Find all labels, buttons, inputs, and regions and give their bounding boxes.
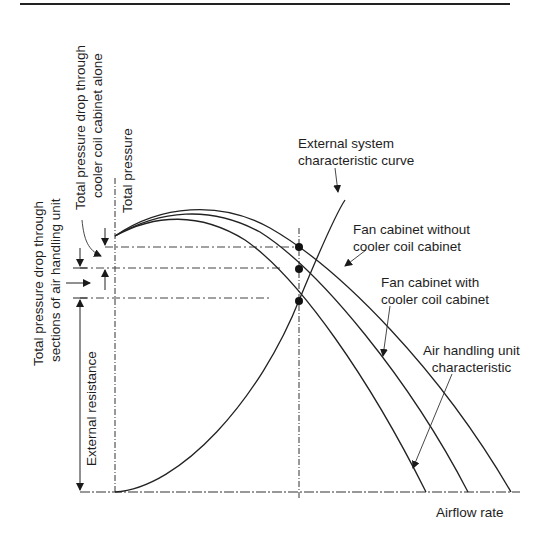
ahu-characteristic-label: Air handling unit characteristic bbox=[423, 342, 520, 376]
fan-with-leader bbox=[383, 306, 390, 356]
fan-with-coil-label: Fan cabinet with cooler coil cabinet bbox=[381, 274, 489, 308]
ahu-characteristic-curve bbox=[115, 219, 426, 492]
x-axis-label: Airflow rate bbox=[436, 504, 504, 521]
ahu-drop-label: Total pressure drop through sections of … bbox=[30, 198, 64, 366]
operating-point-fan-without bbox=[295, 243, 303, 251]
pressure-level-lines bbox=[80, 247, 300, 298]
external-system-curve bbox=[115, 200, 345, 492]
coil-drop-label: Total pressure drop through cooler coil … bbox=[72, 45, 106, 210]
fan-without-coil-label: Fan cabinet without cooler coil cabinet bbox=[353, 221, 470, 255]
coil-drop-leader bbox=[82, 220, 101, 256]
operating-point-ahu bbox=[295, 297, 303, 305]
external-system-leader bbox=[335, 168, 338, 192]
external-system-label: External system characteristic curve bbox=[298, 135, 414, 169]
y-axis-label: Total pressure bbox=[119, 128, 136, 213]
external-resistance-label: External resistance bbox=[83, 351, 100, 466]
ahu-leader bbox=[413, 374, 452, 468]
operating-point-fan-with bbox=[295, 265, 303, 273]
fan-with-coil-curve bbox=[115, 214, 468, 492]
